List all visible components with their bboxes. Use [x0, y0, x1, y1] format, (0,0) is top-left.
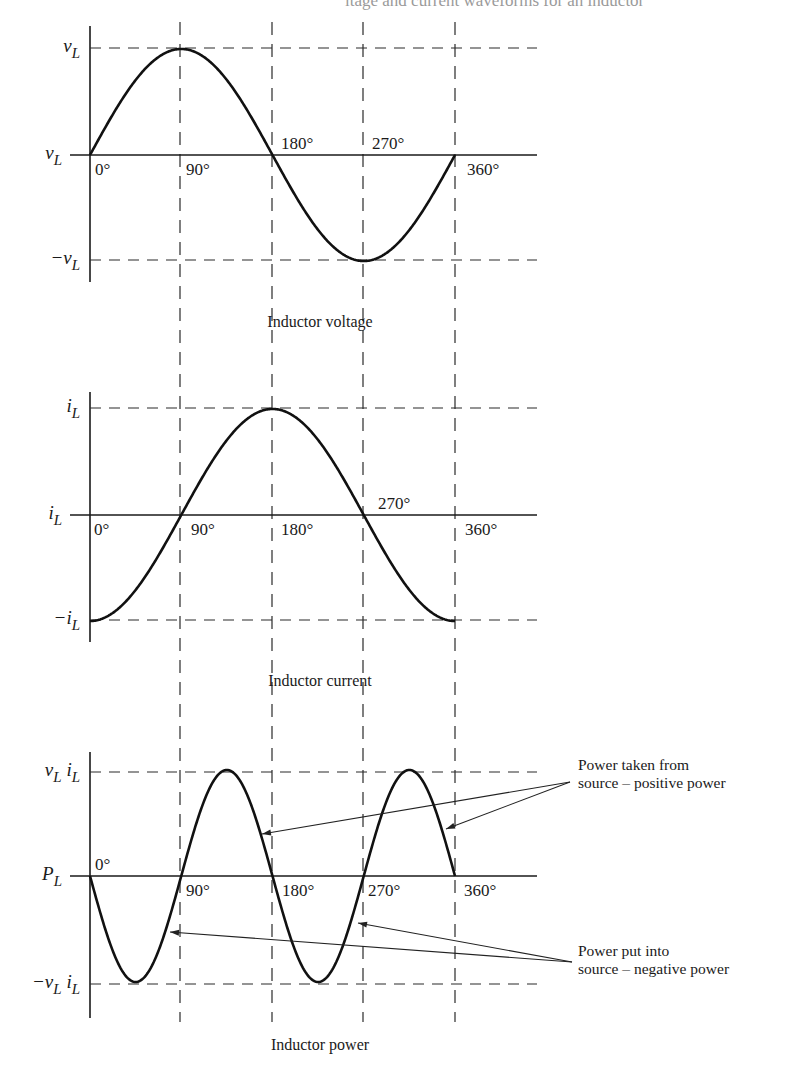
annotation-text: Power put into — [578, 942, 670, 959]
degree-label: 180° — [281, 520, 313, 539]
y-label-min: −vL iL — [32, 971, 80, 997]
y-label-max: vL iL — [45, 759, 80, 785]
panel-voltage: vLvL−vL0°90°180°270°360°Inductor voltage — [45, 26, 537, 331]
panel-current: iLiL−iL0°90°180°270°360°Inductor current — [48, 392, 537, 689]
panel-power: vL iLPL−vL iL0°90°180°270°360°Inductor p… — [32, 752, 730, 1054]
annotation-arrow — [446, 782, 570, 829]
degree-label: 180° — [282, 881, 314, 900]
degree-reference-lines — [180, 22, 455, 1022]
inductor-waveforms-figure: ltage and current waveforms for an induc… — [0, 0, 808, 1074]
degree-label: 0° — [94, 520, 109, 539]
degree-label: 270° — [368, 881, 400, 900]
y-label-zero: iL — [48, 502, 62, 528]
y-label-max: vL — [63, 35, 80, 61]
annotation-positive-power: Power taken fromsource – positive power — [262, 756, 726, 835]
annotation-arrow — [170, 932, 572, 962]
annotation-arrow — [262, 782, 570, 834]
arrowhead-icon — [262, 830, 271, 836]
y-label-zero: vL — [45, 142, 62, 168]
degree-label: 0° — [95, 160, 110, 179]
panel-caption: Inductor voltage — [267, 313, 372, 331]
panel-caption: Inductor power — [271, 1036, 370, 1054]
arrowhead-icon — [170, 930, 179, 936]
y-label-min: −vL — [50, 247, 80, 273]
panels: vLvL−vL0°90°180°270°360°Inductor voltage… — [32, 26, 730, 1054]
annotation-text: Power taken from — [578, 756, 689, 773]
y-label-max: iL — [66, 395, 80, 421]
arrowhead-icon — [446, 823, 455, 829]
degree-label: 360° — [467, 160, 499, 179]
annotation-text: source – positive power — [578, 774, 726, 791]
panel-caption: Inductor current — [268, 672, 372, 689]
degree-label: 90° — [186, 160, 210, 179]
degree-label: 270° — [378, 494, 410, 513]
annotation-arrow — [358, 923, 572, 962]
degree-label: 90° — [186, 881, 210, 900]
degree-label: 180° — [281, 134, 313, 153]
degree-label: 90° — [191, 520, 215, 539]
degree-label: 360° — [465, 520, 497, 539]
degree-label: 360° — [464, 881, 496, 900]
degree-label: 270° — [372, 134, 404, 153]
annotation-negative-power: Power put intosource – negative power — [170, 922, 730, 977]
figure-title: ltage and current waveforms for an induc… — [345, 0, 645, 10]
y-label-min: −iL — [54, 607, 80, 633]
degree-label: 0° — [95, 855, 110, 874]
annotation-text: source – negative power — [578, 960, 730, 977]
y-label-zero: PL — [41, 863, 62, 889]
